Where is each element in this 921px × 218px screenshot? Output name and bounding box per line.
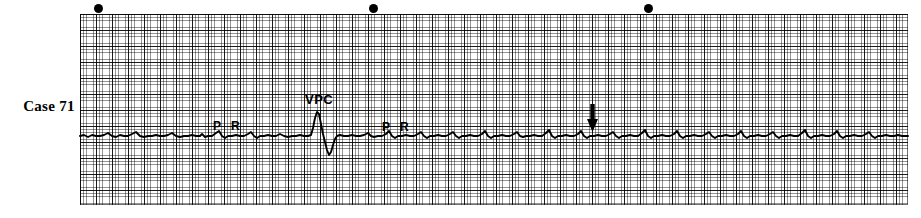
calibration-dot-2 <box>369 4 378 13</box>
case-label: Case 71 <box>19 98 79 115</box>
r-wave-marker-1: R <box>231 119 242 133</box>
ecg-figure: Case 71 PRVPCPR <box>0 0 921 218</box>
ecg-graph-paper <box>80 14 908 205</box>
calibration-dot-1 <box>94 4 103 13</box>
p-wave-marker-1: P <box>213 119 223 133</box>
r-wave-marker-2: R <box>400 120 411 134</box>
p-wave-marker-2: P <box>382 120 392 134</box>
vpc-marker: VPC <box>305 92 333 107</box>
calibration-dot-3 <box>644 4 653 13</box>
downward-arrow-marker <box>586 104 599 132</box>
